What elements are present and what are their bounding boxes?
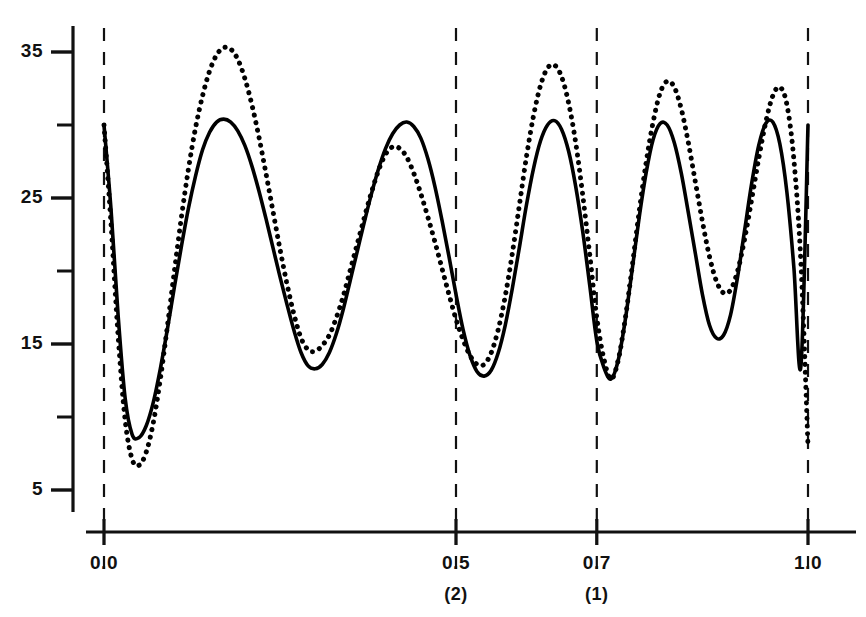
x-sublabel-0.5: (2)	[416, 584, 496, 605]
plot-canvas	[0, 0, 866, 617]
x-tick-label-0.7: 0.7	[557, 552, 637, 574]
chart-figure: 35251550.00.5(2)0.7(1)1.0	[0, 0, 866, 617]
x-sublabel-0.7: (1)	[557, 584, 637, 605]
y-tick-label-25: 25	[21, 186, 43, 208]
x-tick-label-0.0: 0.0	[64, 552, 144, 574]
x-tick-label-0.5: 0.5	[416, 552, 496, 574]
x-tick-label-1.0: 1.0	[768, 552, 848, 574]
y-tick-label-15: 15	[21, 332, 43, 354]
y-tick-label-5: 5	[32, 478, 43, 500]
y-tick-label-35: 35	[21, 40, 43, 62]
